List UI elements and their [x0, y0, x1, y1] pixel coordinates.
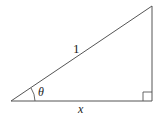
right-angle-marker-icon: [143, 92, 152, 101]
hypotenuse-line: [11, 6, 152, 101]
angle-arc-icon: [31, 88, 35, 101]
hypotenuse-label: 1: [73, 42, 80, 55]
angle-theta-label: θ: [38, 86, 44, 98]
adjacent-side-label: x: [78, 103, 83, 115]
